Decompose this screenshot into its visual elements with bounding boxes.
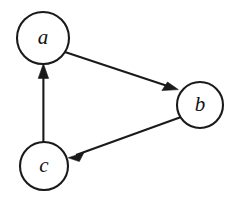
node-b[interactable]: b — [177, 82, 223, 128]
edge-b-to-c-line — [76, 117, 180, 155]
edge-a-to-b-arrowhead-icon — [162, 82, 178, 91]
edge-a-to-b-line — [65, 52, 171, 87]
directed-graph-figure: a b c — [0, 0, 232, 200]
node-b-label: b — [195, 92, 206, 116]
edge-a-to-b — [65, 52, 178, 91]
edge-b-to-c — [68, 117, 180, 161]
node-c[interactable]: c — [20, 142, 68, 190]
node-c-label: c — [39, 153, 49, 177]
edge-b-to-c-arrowhead-icon — [68, 152, 84, 161]
node-a-label: a — [38, 25, 49, 49]
edge-c-to-a-arrowhead-icon — [38, 64, 48, 79]
graph-canvas: a b c — [0, 0, 232, 200]
node-a[interactable]: a — [17, 12, 69, 64]
edge-c-to-a — [38, 64, 48, 142]
